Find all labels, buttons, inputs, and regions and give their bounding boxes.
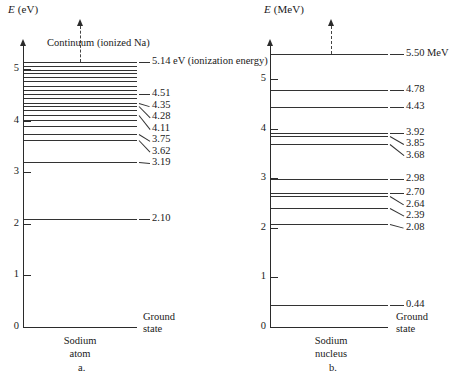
level-leader-line	[390, 107, 404, 108]
y-axis-arrowhead	[267, 39, 273, 46]
y-axis-line	[270, 46, 271, 327]
energy-level-line	[271, 208, 388, 209]
energy-level-line	[24, 115, 137, 116]
energy-level-label: 3.92	[406, 126, 424, 137]
energy-level-line	[271, 144, 388, 145]
y-axis-unit: (eV)	[15, 3, 38, 15]
y-axis-tick-label: 1	[3, 268, 19, 279]
energy-level-line	[271, 305, 388, 306]
level-leader-line	[390, 133, 404, 134]
energy-level-line	[24, 86, 137, 87]
energy-level-label: 2.10	[152, 212, 170, 223]
energy-level-line	[24, 62, 137, 63]
energy-level-line	[24, 66, 137, 67]
y-axis-arrowhead	[20, 39, 26, 46]
y-axis-line	[23, 46, 24, 327]
y-axis-tick-label: 5	[250, 72, 266, 83]
energy-level-line	[271, 179, 388, 180]
level-leader-line	[390, 54, 404, 55]
y-axis-tick	[271, 129, 278, 130]
x-axis-caption-line: Sodium	[291, 335, 371, 348]
energy-level-line	[24, 110, 137, 111]
energy-level-line	[24, 81, 137, 82]
energy-level-line	[24, 77, 137, 78]
energy-level-label: 2.39	[406, 209, 424, 220]
level-leader-line	[139, 94, 150, 95]
energy-level-label: 4.78	[406, 83, 424, 94]
energy-level-figure: E (eV)1234505.14 eV (ionization energy)4…	[0, 0, 471, 377]
y-axis-title: E (MeV)	[264, 3, 304, 15]
x-axis-caption: Sodiumatom	[40, 335, 120, 360]
y-axis-tick	[24, 224, 31, 225]
level-leader-line	[139, 140, 151, 152]
energy-level-label: 4.43	[406, 100, 424, 111]
energy-level-line	[271, 196, 388, 197]
ground-state-line	[23, 327, 137, 328]
continuum-arrow-line	[331, 26, 332, 54]
energy-level-label: 2.08	[406, 221, 424, 232]
energy-level-label: 0.44	[406, 298, 424, 309]
level-leader-line	[390, 136, 404, 145]
y-axis-tick	[24, 172, 31, 173]
level-leader-line	[390, 179, 404, 180]
energy-level-line	[24, 134, 137, 135]
level-leader-line	[139, 62, 150, 63]
y-axis-tick-label: 3	[3, 165, 19, 176]
y-axis-tick	[271, 228, 278, 229]
energy-level-label: 3.85	[406, 137, 424, 148]
x-axis-caption: Sodiumnucleus	[291, 335, 371, 360]
y-axis-symbol: E	[264, 3, 271, 15]
level-leader-line	[139, 219, 150, 220]
energy-level-label: 4.51	[152, 87, 170, 98]
ground-state-label: Groundstate	[143, 311, 175, 335]
y-axis-tick-label: 0	[250, 320, 266, 331]
level-leader-line	[390, 196, 405, 205]
energy-level-line	[24, 94, 137, 95]
y-axis-tick-label: 1	[250, 270, 266, 281]
continuum-label: Continuum (ionized Na)	[47, 37, 150, 48]
energy-level-line	[24, 120, 137, 121]
energy-level-label: 2.64	[406, 198, 424, 209]
energy-level-label: 3.62	[152, 145, 170, 156]
energy-level-label: 4.35	[152, 99, 170, 110]
y-axis-symbol: E	[8, 3, 15, 15]
y-axis-title: E (eV)	[8, 3, 38, 15]
level-leader-line	[139, 162, 150, 164]
energy-level-line	[24, 106, 137, 107]
energy-level-label: 3.19	[152, 156, 170, 167]
energy-level-label: 4.28	[152, 110, 170, 121]
ground-state-label-line: state	[143, 323, 175, 335]
energy-level-line	[271, 54, 388, 55]
level-leader-line	[390, 305, 404, 306]
energy-level-line	[24, 162, 137, 163]
ground-state-label-line: Ground	[143, 311, 175, 323]
y-axis-tick	[24, 275, 31, 276]
energy-level-line	[24, 90, 137, 91]
energy-level-line	[24, 219, 137, 220]
y-axis-tick-label: 3	[250, 171, 266, 182]
level-leader-line	[390, 90, 404, 91]
energy-level-label: 5.50 MeV	[406, 47, 449, 58]
energy-level-line	[24, 73, 137, 74]
y-axis-tick-label: 2	[3, 217, 19, 228]
y-axis-tick-label: 5	[3, 62, 19, 73]
energy-level-line	[24, 98, 137, 99]
y-axis-tick	[271, 79, 278, 80]
energy-level-line	[271, 193, 388, 194]
energy-level-line	[24, 140, 137, 141]
continuum-arrow-head	[328, 19, 334, 26]
panel-letter: a.	[78, 362, 85, 373]
energy-level-line	[24, 103, 137, 104]
energy-level-line	[271, 107, 388, 108]
x-axis-caption-line: nucleus	[291, 348, 371, 361]
energy-level-label: 3.75	[152, 133, 170, 144]
panel-letter: b.	[329, 362, 337, 373]
y-axis-tick-label: 4	[3, 114, 19, 125]
energy-level-line	[271, 90, 388, 91]
energy-level-label: 2.98	[406, 172, 424, 183]
continuum-arrow-head	[77, 19, 83, 26]
level-leader-line	[390, 224, 404, 229]
level-leader-line	[390, 144, 405, 156]
panel-sodium-nucleus: E (MeV)1234505.50 MeV4.784.433.923.853.6…	[236, 0, 471, 377]
energy-level-label: 4.11	[152, 122, 170, 133]
